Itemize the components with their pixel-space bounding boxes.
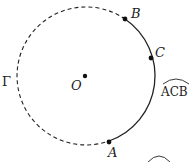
solid-arc-acb xyxy=(109,19,155,141)
point-c-label: C xyxy=(155,45,165,60)
point-a-label: A xyxy=(107,145,117,160)
arc-notation-icon xyxy=(163,79,189,84)
point-b-label: B xyxy=(130,6,141,21)
center-label: O xyxy=(71,78,82,93)
point-a xyxy=(107,140,112,145)
circle-diagram: O B C A Γ ACB xyxy=(0,0,191,162)
center-point xyxy=(83,74,87,78)
dashed-arc xyxy=(17,7,125,145)
arc-label: ACB xyxy=(160,85,188,99)
partial-arc-notation-icon xyxy=(148,156,170,162)
point-c xyxy=(149,56,154,61)
point-b xyxy=(123,17,128,22)
circle-label: Γ xyxy=(2,74,11,89)
